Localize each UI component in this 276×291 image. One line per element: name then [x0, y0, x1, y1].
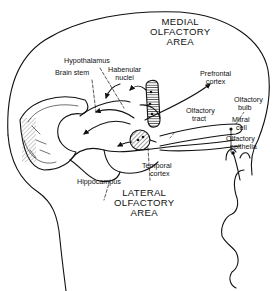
olfactory-bulb-label: Olfactory bulb	[234, 96, 263, 112]
lateral-olfactory-area-label: LATERAL OLFACTORY AREA	[114, 188, 174, 218]
brain-stem-label: Brain stem	[55, 69, 89, 77]
medial-line-3: AREA	[150, 37, 210, 47]
olfactory-epithelia-label: Olfactory epithelia	[226, 135, 257, 151]
hypothalamus-label: Hypothalamus	[64, 57, 110, 65]
prefrontal-cortex-label: Prefrontal cortex	[200, 70, 231, 86]
epithelia-line-2: epithelia	[226, 143, 257, 151]
olfactory-diagram: MEDIAL OLFACTORY AREA Hypothalamus Brain…	[0, 0, 276, 291]
olfactory-tract-label: Olfactory tract	[186, 107, 215, 123]
habenular-line-2: nuclei	[108, 74, 141, 82]
tract-line-2: tract	[186, 115, 215, 123]
medial-olfactory-area-label: MEDIAL OLFACTORY AREA	[150, 17, 210, 47]
hippocampus-label: Hippocampus	[77, 178, 121, 186]
lateral-line-3: AREA	[114, 208, 174, 218]
habenular-nuclei-label: Habenular nuclei	[108, 66, 141, 82]
lateral-olfactory-region	[130, 130, 150, 150]
mitral-cell-label: Mitral cell	[232, 116, 250, 132]
bulb-line-2: bulb	[234, 104, 263, 112]
temporal-line-2: cortex	[142, 170, 172, 178]
prefrontal-line-2: cortex	[200, 78, 231, 86]
face-outline	[222, 170, 244, 288]
mitral-line-2: cell	[232, 124, 250, 132]
medial-olfactory-region	[146, 80, 160, 127]
temporal-cortex-label: Temporal cortex	[142, 162, 172, 178]
